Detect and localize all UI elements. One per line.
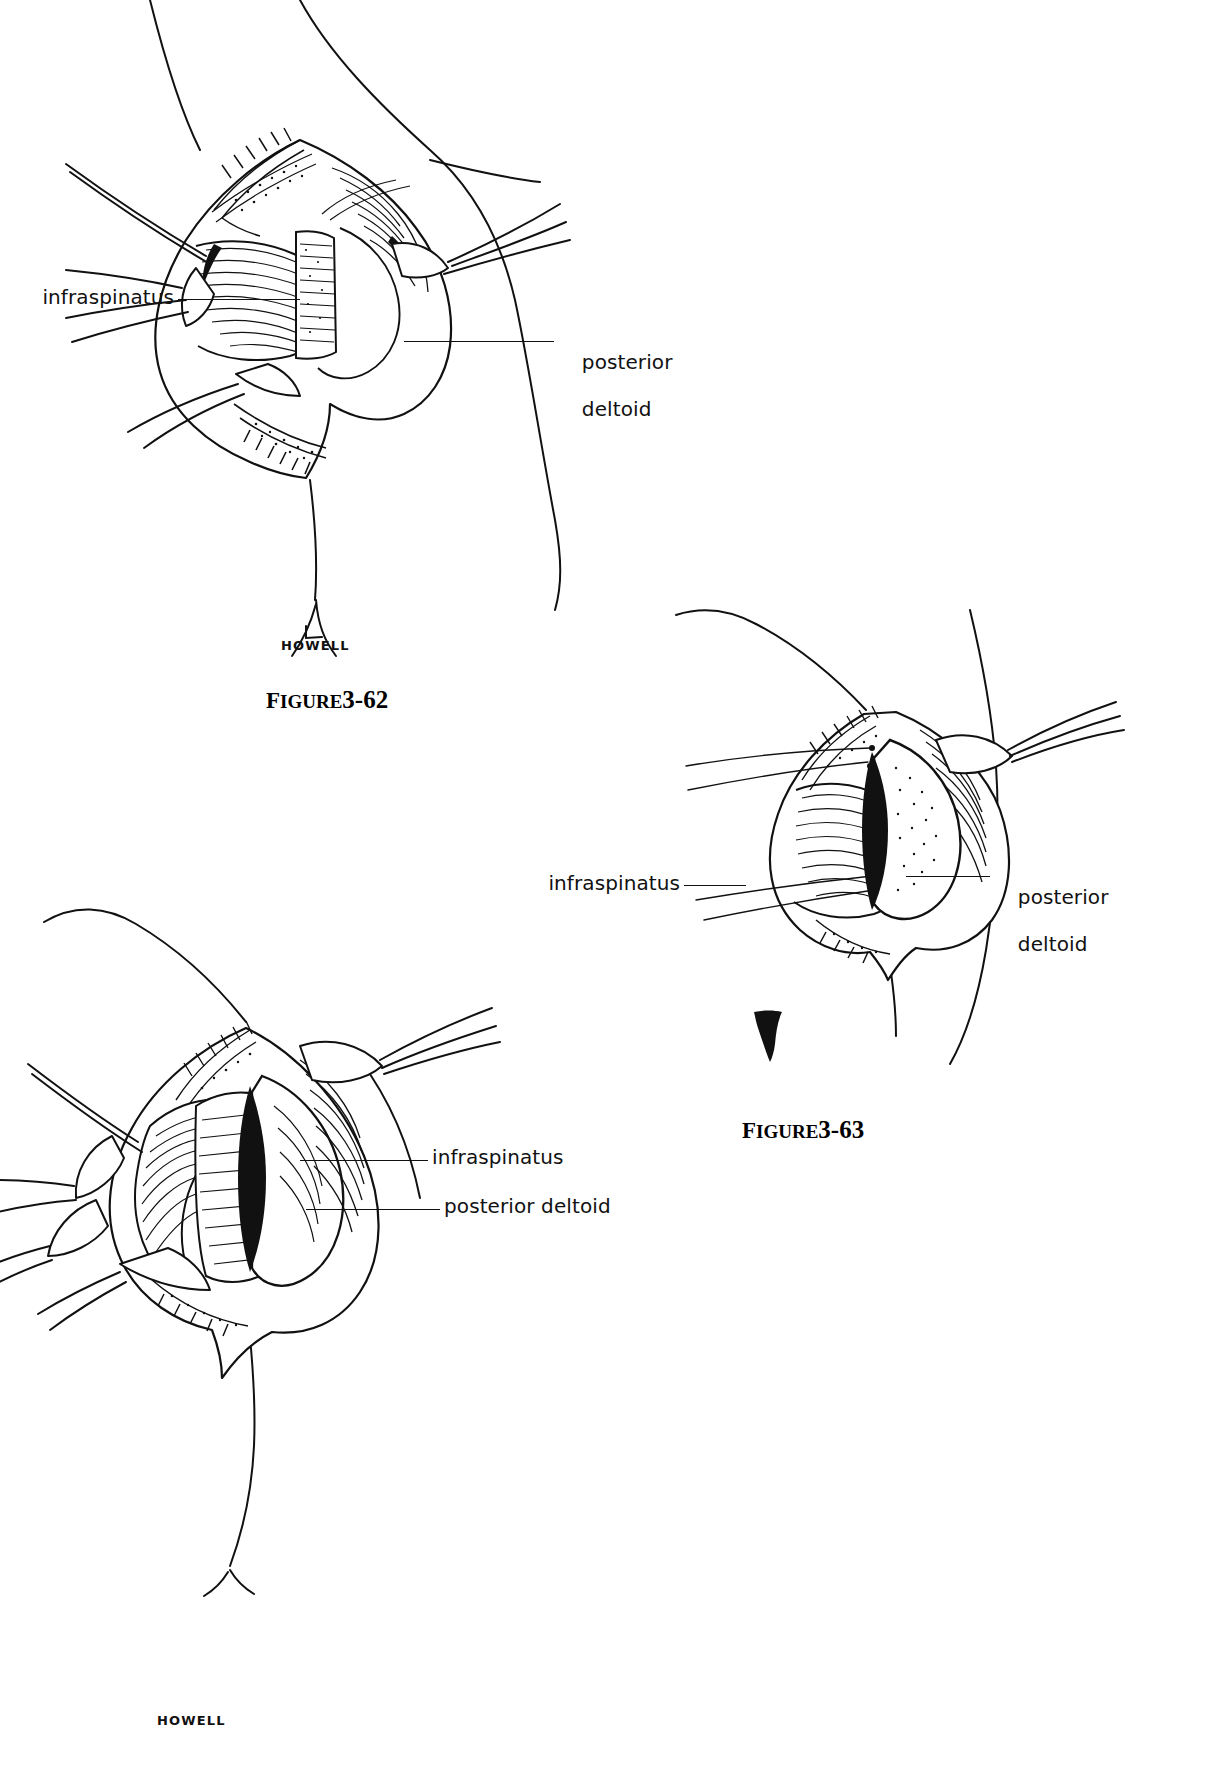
label-line-1: posterior bbox=[582, 350, 673, 374]
leader-line-posterior-deltoid-fig-lower-left bbox=[306, 1209, 440, 1210]
leader-line-infraspinatus-fig-lower-left bbox=[300, 1160, 428, 1161]
label-line-1: posterior bbox=[1018, 885, 1109, 909]
caption-prefix: F bbox=[742, 1118, 756, 1143]
label-posterior-deltoid-fig-lower-left: posterior deltoid bbox=[444, 1195, 674, 1219]
label-infraspinatus-fig-lower-left: infraspinatus bbox=[432, 1146, 632, 1170]
figure-lower-left-illustration bbox=[0, 880, 640, 1600]
figure-3-62-drawing bbox=[0, 0, 640, 660]
leader-line-infraspinatus-fig-3-63 bbox=[684, 885, 746, 886]
artist-signature-fig-lower-left: HOWELL bbox=[134, 1698, 226, 1743]
figure-3-63-drawing bbox=[620, 590, 1228, 1070]
caption-number: 3-63 bbox=[818, 1116, 864, 1143]
figure-lower-left-drawing bbox=[0, 880, 640, 1600]
figure-caption-3-62: FIGURE3-62 bbox=[250, 668, 388, 732]
signature-flourish-fig-3-62 bbox=[304, 624, 326, 644]
caption-word: IGURE bbox=[756, 1121, 818, 1142]
label-infraspinatus-fig-3-62: infraspinatus bbox=[24, 286, 174, 310]
figure-3-63-illustration bbox=[620, 590, 1228, 1070]
caption-word: IGURE bbox=[280, 691, 342, 712]
retractor-tip-mark-fig-3-63 bbox=[748, 1006, 790, 1064]
figure-3-62-illustration bbox=[0, 0, 640, 660]
signature-text: HOWELL bbox=[157, 1713, 226, 1728]
label-line-2: deltoid bbox=[582, 397, 652, 421]
caption-number: 3-62 bbox=[342, 686, 388, 713]
leader-line-infraspinatus-fig-3-62 bbox=[178, 299, 300, 300]
label-posterior-deltoid-fig-3-62: posterior deltoid bbox=[556, 327, 716, 445]
label-line-2: deltoid bbox=[1018, 932, 1088, 956]
figure-caption-3-63: FIGURE3-63 bbox=[726, 1098, 864, 1162]
leader-line-posterior-deltoid-fig-3-63 bbox=[906, 876, 990, 877]
label-posterior-deltoid-fig-3-63: posterior deltoid bbox=[992, 862, 1152, 980]
leader-line-posterior-deltoid-fig-3-62 bbox=[404, 341, 554, 342]
atlas-page: infraspinatus posterior deltoid HOWELL F… bbox=[0, 0, 1228, 1765]
caption-prefix: F bbox=[266, 688, 280, 713]
